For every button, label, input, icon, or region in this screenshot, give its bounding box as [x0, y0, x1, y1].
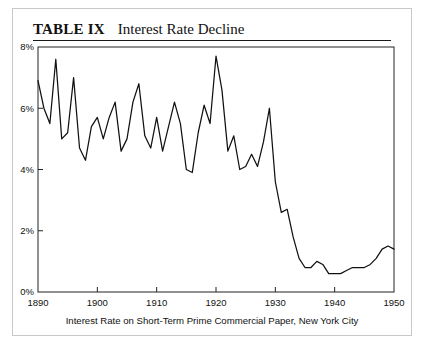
x-axis-tick-labels: 1890190019101920193019401950 — [27, 297, 404, 308]
x-tick-label: 1890 — [27, 297, 48, 308]
y-tick-label: 0% — [20, 286, 34, 297]
x-tick-label: 1930 — [265, 297, 286, 308]
y-tick-label: 8% — [20, 41, 34, 52]
line-chart-svg: 0%2%4%6%8% 1890190019101920193019401950 — [13, 9, 413, 337]
x-tick-label: 1900 — [87, 297, 108, 308]
axis-frame — [38, 47, 394, 292]
data-series-line — [38, 56, 394, 273]
y-axis-ticks — [38, 108, 43, 231]
y-tick-label: 2% — [20, 225, 34, 236]
x-axis-ticks — [97, 287, 334, 292]
chart-caption: Interest Rate on Short-Term Prime Commer… — [33, 315, 391, 326]
x-tick-label: 1910 — [146, 297, 167, 308]
figure-container: TABLE IX Interest Rate Decline 0%2%4%6%8… — [12, 8, 412, 336]
x-tick-label: 1950 — [383, 297, 404, 308]
y-tick-label: 4% — [20, 164, 34, 175]
y-tick-label: 6% — [20, 103, 34, 114]
y-axis-tick-labels: 0%2%4%6%8% — [20, 41, 34, 297]
chart-plot-area: 0%2%4%6%8% 1890190019101920193019401950 — [13, 9, 413, 337]
x-tick-label: 1920 — [205, 297, 226, 308]
x-tick-label: 1940 — [324, 297, 345, 308]
